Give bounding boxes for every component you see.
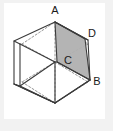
- vertex-label-b: B: [93, 75, 100, 87]
- vertex-label-a: A: [51, 4, 59, 16]
- geometry-figure: A B C D: [0, 0, 113, 131]
- vertex-label-c: C: [64, 54, 72, 66]
- cube-diagram-canvas: A B C D: [0, 0, 113, 131]
- vertex-label-d: D: [88, 27, 96, 39]
